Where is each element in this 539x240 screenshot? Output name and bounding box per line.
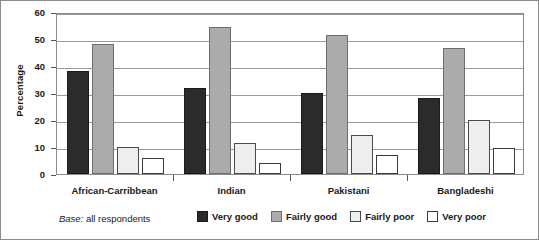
legend-label: Very poor xyxy=(442,211,486,222)
bar xyxy=(184,88,206,174)
legend-label: Fairly good xyxy=(286,211,337,222)
x-axis-tick-mark xyxy=(173,175,174,181)
y-axis-tick-label: 50 xyxy=(5,34,45,45)
base-note-emphasis: Base: xyxy=(59,213,83,224)
legend-item: Very poor xyxy=(427,211,486,222)
y-axis-tick-label: 10 xyxy=(5,142,45,153)
chart-legend: Very goodFairly goodFairly poorVery poor xyxy=(197,211,492,222)
bar xyxy=(301,93,323,174)
y-axis-tick-label: 60 xyxy=(5,7,45,18)
x-axis-tick-mark xyxy=(407,175,408,181)
bar xyxy=(326,35,348,174)
legend-item: Fairly poor xyxy=(350,211,414,222)
legend-item: Very good xyxy=(197,211,258,222)
legend-label: Very good xyxy=(212,211,258,222)
x-axis-category-label: Bangladeshi xyxy=(407,185,524,196)
base-note: Base: all respondents xyxy=(59,213,150,224)
bar-group xyxy=(174,14,291,174)
base-note-text: all respondents xyxy=(83,213,150,224)
bar xyxy=(493,148,515,174)
bar xyxy=(443,48,465,174)
legend-swatch xyxy=(427,211,438,222)
bar-group xyxy=(57,14,174,174)
x-axis-category-label: African-Carribbean xyxy=(56,185,173,196)
bar xyxy=(234,143,256,174)
x-axis-tick-mark xyxy=(290,175,291,181)
x-axis-category-label: Indian xyxy=(173,185,290,196)
bar-series-container xyxy=(57,14,523,174)
bar xyxy=(468,120,490,174)
bar xyxy=(67,71,89,174)
bar xyxy=(259,163,281,174)
bar-group xyxy=(408,14,525,174)
legend-swatch xyxy=(197,211,208,222)
y-axis-tick-label: 20 xyxy=(5,115,45,126)
legend-item: Fairly good xyxy=(271,211,337,222)
bar xyxy=(351,135,373,174)
y-axis-tick-label: 0 xyxy=(5,169,45,180)
plot-area xyxy=(56,13,524,175)
legend-swatch xyxy=(350,211,361,222)
bar xyxy=(209,27,231,174)
legend-label: Fairly poor xyxy=(365,211,414,222)
bar xyxy=(142,158,164,174)
bar xyxy=(418,98,440,174)
bar-group xyxy=(291,14,408,174)
chart-figure: Percentage 0102030405060 African-Carribb… xyxy=(0,0,539,240)
x-axis-category-label: Pakistani xyxy=(290,185,407,196)
bar xyxy=(376,155,398,174)
y-axis-tick-label: 30 xyxy=(5,88,45,99)
y-axis-tick-mark xyxy=(51,175,56,176)
bar xyxy=(92,44,114,174)
bar xyxy=(117,147,139,174)
y-axis-tick-label: 40 xyxy=(5,61,45,72)
legend-swatch xyxy=(271,211,282,222)
